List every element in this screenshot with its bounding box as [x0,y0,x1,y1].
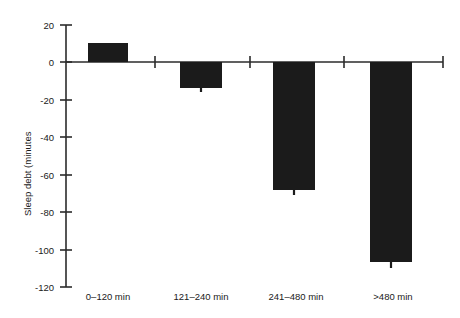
bar-over-480-min [370,62,412,262]
y-tick-label-0: 0 [49,57,54,68]
bar-chart: 20 0 -20 -40 -60 -80 -100 -120 Sleep deb… [0,0,460,318]
y-tick-label-minus100: -100 [35,245,54,256]
bar-121-240-min [180,62,222,88]
y-tick-label-minus40: -40 [40,132,54,143]
y-tick-label-minus20: -20 [40,95,54,106]
chart-canvas: 20 0 -20 -40 -60 -80 -100 -120 Sleep deb… [0,0,460,318]
x-label-241-480-min: 241–480 min [269,291,324,302]
bar-0-120-min [88,43,128,62]
y-tick-label-minus80: -80 [40,207,54,218]
y-tick-label-minus120: -120 [35,282,54,293]
x-label-121-240-min: 121–240 min [174,291,229,302]
y-axis-tick-labels: 20 0 -20 -40 -60 -80 -100 -120 [35,20,54,293]
x-label-0-120-min: 0–120 min [86,291,130,302]
y-tick-label-20: 20 [43,20,54,31]
y-tick-label-minus60: -60 [40,170,54,181]
bar-series [88,43,412,262]
y-axis-title: Sleep debt (minutes [22,131,33,216]
x-label-over-480-min: >480 min [373,291,412,302]
bar-241-480-min [273,62,315,190]
x-axis-category-labels: 0–120 min 121–240 min 241–480 min >480 m… [86,291,413,302]
